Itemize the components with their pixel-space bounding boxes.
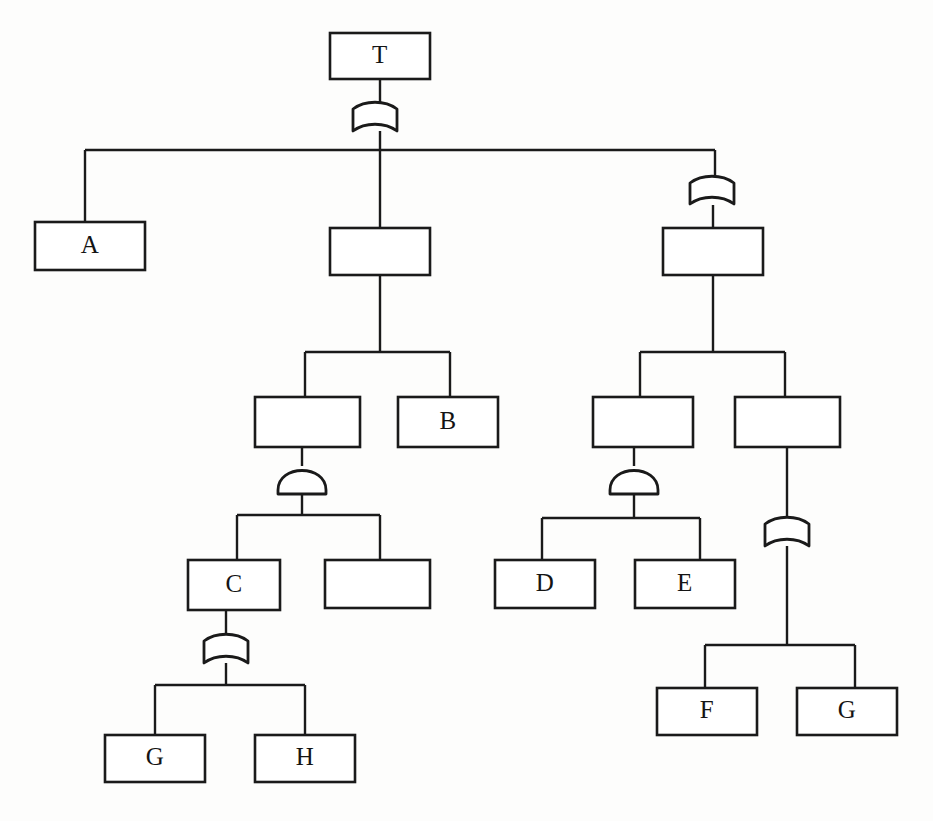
xor-partition-marker-icon [765, 517, 809, 546]
tree-node[interactable]: B [398, 397, 498, 447]
tree-node[interactable] [330, 228, 430, 275]
tree-node[interactable]: C [188, 560, 280, 610]
node-label: G [146, 743, 165, 770]
node-label: G [838, 696, 857, 723]
tree-node[interactable]: F [657, 688, 757, 735]
and-decomposition-marker-icon [610, 471, 658, 495]
diagram-canvas: TABCDEFGGH [0, 0, 933, 821]
tree-node[interactable] [735, 397, 840, 447]
node-label: T [372, 41, 388, 68]
node-box[interactable] [330, 228, 430, 275]
and-decomposition-marker-icon [278, 471, 326, 495]
tree-node[interactable]: G [105, 735, 205, 782]
and-or-tree-diagram: TABCDEFGGH [0, 0, 933, 821]
xor-partition-marker-icon [204, 634, 248, 663]
node-box[interactable] [255, 397, 360, 447]
tree-node[interactable]: A [35, 222, 145, 270]
node-label: C [225, 570, 242, 597]
tree-node[interactable]: E [635, 560, 735, 608]
node-label: F [700, 696, 714, 723]
xor-partition-marker-icon [353, 102, 397, 131]
node-box[interactable] [593, 397, 693, 447]
node-box[interactable] [325, 560, 430, 608]
tree-node[interactable] [663, 228, 763, 275]
tree-node[interactable]: H [255, 735, 355, 782]
tree-node[interactable] [593, 397, 693, 447]
node-label: D [536, 569, 555, 596]
tree-node[interactable] [325, 560, 430, 608]
node-label: H [296, 743, 315, 770]
node-box[interactable] [663, 228, 763, 275]
tree-node[interactable]: G [797, 688, 897, 735]
tree-node[interactable]: D [495, 560, 595, 608]
node-label: E [677, 569, 693, 596]
nodes-layer: TABCDEFGGH [35, 33, 897, 782]
node-label: B [439, 407, 456, 434]
xor-partition-marker-icon [690, 176, 734, 204]
node-label: A [81, 231, 100, 258]
tree-node[interactable]: T [330, 33, 430, 79]
node-box[interactable] [735, 397, 840, 447]
tree-node[interactable] [255, 397, 360, 447]
